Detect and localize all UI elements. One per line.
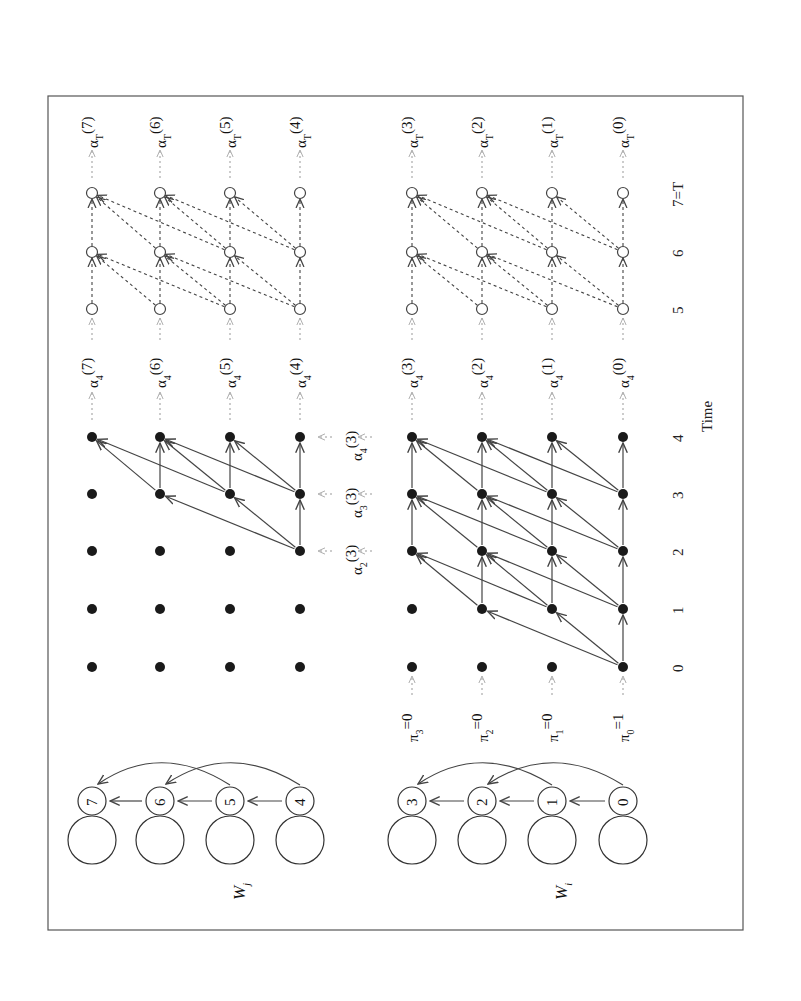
transition-arrow	[487, 441, 548, 490]
svg-text:α4(5): α4(5)	[217, 358, 243, 388]
state-number: 1	[544, 799, 560, 807]
dashed-transition-arrow	[557, 197, 619, 248]
alphaT-label: αT(5)	[217, 117, 243, 148]
state-number: 5	[222, 799, 238, 807]
upper-trellis-node	[225, 546, 235, 556]
transition-arrow	[235, 498, 296, 547]
lower-open-node	[477, 304, 488, 315]
transition-arrow	[165, 441, 226, 490]
svg-text:αT(2): αT(2)	[469, 117, 495, 148]
upper-open-node	[155, 247, 166, 258]
svg-text:αT(3): αT(3)	[399, 117, 425, 148]
svg-text:α2(3): α2(3)	[343, 545, 369, 575]
time-tick-label: 4	[670, 434, 686, 442]
alphaT-label: αT(6)	[147, 117, 173, 148]
transition-arrow	[557, 555, 619, 605]
initial-prob-label: π2=0	[469, 713, 495, 742]
dashed-transition-arrow	[165, 197, 226, 248]
upper-trellis-node	[295, 604, 305, 614]
svg-text:αT(4): αT(4)	[287, 117, 313, 148]
time-tick-label: 1	[670, 607, 686, 615]
state-number: 6	[152, 798, 168, 806]
time-axis-label: Time	[699, 401, 715, 432]
lower-trellis-node	[618, 662, 628, 672]
svg-text:αT(5): αT(5)	[217, 117, 243, 148]
self-loop-icon	[136, 816, 184, 864]
time-tick-label: 7=T	[670, 182, 686, 207]
svg-text:αT(6): αT(6)	[147, 117, 173, 148]
upper-open-node	[295, 188, 306, 199]
svg-text:3: 3	[670, 492, 686, 500]
lower-trellis-node	[618, 489, 628, 499]
transition-arrow	[417, 555, 478, 605]
lower-open-node	[618, 304, 629, 315]
state-number: 7	[84, 798, 100, 806]
svg-text:α3(3): α3(3)	[343, 488, 369, 518]
dashed-transition-arrow	[166, 254, 295, 306]
lower-trellis-node	[477, 662, 487, 672]
upper-open-node	[87, 247, 98, 258]
lower-trellis-node	[407, 546, 417, 556]
dashed-transition-arrow	[557, 256, 619, 305]
svg-text:π1=0: π1=0	[539, 713, 565, 742]
transition-arrow	[488, 611, 618, 664]
lower-trellis-node	[407, 662, 417, 672]
alphaT-label: αT(2)	[469, 117, 495, 148]
lower-trellis-node	[407, 432, 417, 442]
svg-text:α4(1): α4(1)	[539, 358, 565, 388]
lower-trellis-node	[547, 662, 557, 672]
lower-open-node	[618, 247, 629, 258]
upper-trellis-node	[295, 546, 305, 556]
upper-open-node	[87, 188, 98, 199]
state-number: 0	[615, 799, 631, 807]
dashed-transition-arrow	[418, 254, 547, 306]
lower-trellis-node	[407, 604, 417, 614]
lower-open-node	[407, 188, 418, 199]
upper-open-node	[87, 304, 98, 315]
svg-text:2: 2	[670, 549, 686, 557]
lower-trellis-node	[547, 489, 557, 499]
lower-trellis-node	[477, 432, 487, 442]
dashed-transition-arrow	[488, 254, 618, 307]
middle-alpha-label: α4(3)	[343, 431, 369, 461]
dashed-transition-arrow	[97, 197, 156, 248]
svg-text:6: 6	[152, 798, 168, 806]
upper-trellis-node	[295, 432, 305, 442]
alpha4-label: α4(7)	[79, 358, 105, 388]
svg-text:4: 4	[670, 434, 686, 442]
transition-arrow	[557, 498, 619, 547]
transition-arrow	[417, 498, 478, 547]
time-tick-label: 2	[670, 549, 686, 557]
dashed-transition-arrow	[487, 197, 548, 248]
upper-open-node	[155, 304, 166, 315]
self-loop-icon	[388, 816, 436, 864]
lower-trellis-node	[547, 546, 557, 556]
lower-open-node	[407, 247, 418, 258]
self-loop-icon	[599, 816, 647, 864]
upper-trellis-node	[87, 489, 97, 499]
dashed-transition-arrow	[98, 254, 225, 306]
upper-trellis-node	[225, 432, 235, 442]
lower-open-node	[618, 188, 629, 199]
dashed-transition-arrow	[417, 197, 478, 248]
upper-trellis-node	[295, 662, 305, 672]
self-loop-icon	[276, 816, 324, 864]
dashed-transition-arrow	[235, 256, 296, 305]
time-tick-label: 0	[670, 665, 686, 673]
alpha4-label: α4(0)	[610, 358, 636, 388]
svg-text:5: 5	[222, 799, 238, 807]
svg-text:5: 5	[670, 307, 686, 315]
svg-text:7: 7	[84, 798, 100, 806]
lower-open-node	[547, 188, 558, 199]
svg-text:1: 1	[544, 799, 560, 807]
lower-trellis-node	[547, 432, 557, 442]
state-number: 3	[404, 799, 420, 807]
dashed-transition-arrow	[487, 256, 548, 305]
alpha4-label: α4(4)	[287, 358, 313, 388]
lower-trellis-node	[477, 546, 487, 556]
lower-open-node	[477, 247, 488, 258]
state-number: 4	[292, 798, 308, 806]
svg-text:αT(0): αT(0)	[610, 117, 636, 148]
skip-transition-arc	[98, 763, 230, 785]
upper-trellis-node	[155, 432, 165, 442]
